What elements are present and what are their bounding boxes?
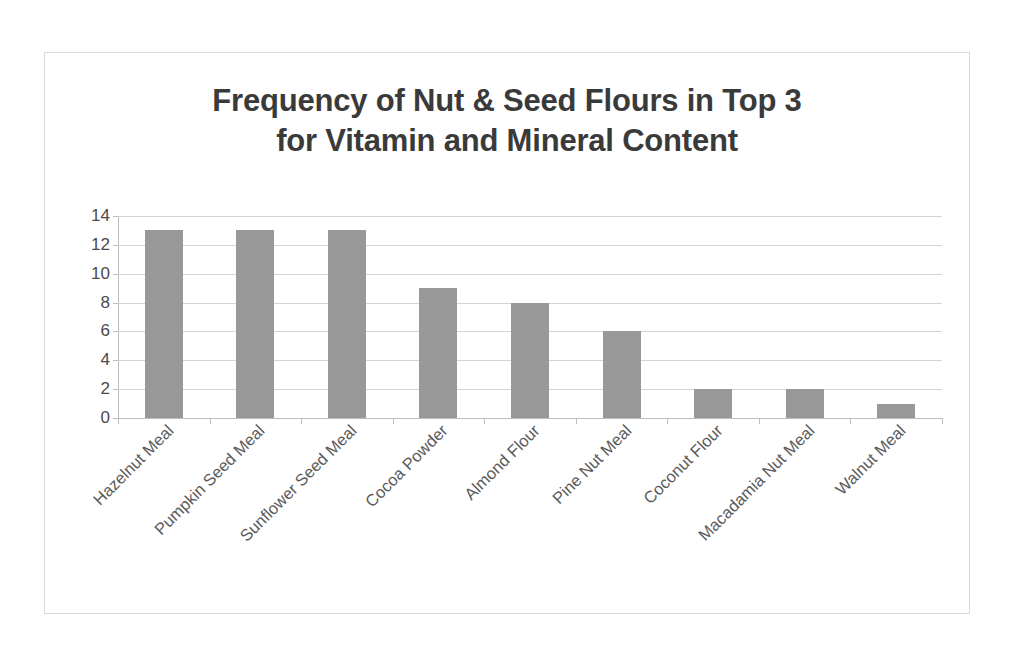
bar[interactable]: [419, 288, 457, 418]
y-axis-tick-mark: [113, 245, 118, 246]
bar[interactable]: [694, 389, 732, 418]
bar[interactable]: [328, 230, 366, 418]
y-axis-tick-label: 2: [70, 380, 110, 397]
bar[interactable]: [603, 331, 641, 418]
y-axis-tick-label: 8: [70, 294, 110, 311]
x-axis-tick-mark: [942, 418, 943, 424]
bar[interactable]: [511, 303, 549, 418]
x-axis-category-labels: Hazelnut MealPumpkin Seed MealSunflower …: [118, 421, 942, 611]
bar[interactable]: [877, 404, 915, 418]
chart-title-line-1: Frequency of Nut & Seed Flours in Top 3: [45, 81, 969, 121]
y-axis-tick-mark: [113, 360, 118, 361]
gridline: [118, 418, 942, 419]
y-axis-tick-label: 10: [70, 265, 110, 282]
y-axis-tick-label: 4: [70, 351, 110, 368]
chart-title: Frequency of Nut & Seed Flours in Top 3 …: [45, 81, 969, 161]
plot-area: [118, 216, 942, 418]
y-axis-tick-label: 0: [70, 409, 110, 426]
y-axis-line: [118, 216, 119, 418]
chart-title-line-2: for Vitamin and Mineral Content: [45, 121, 969, 161]
y-axis-tick-label: 6: [70, 322, 110, 339]
y-axis-tick-mark: [113, 331, 118, 332]
y-axis-tick-mark: [113, 274, 118, 275]
y-axis-tick-labels: 14121086420: [62, 216, 110, 418]
bar[interactable]: [236, 230, 274, 418]
bar[interactable]: [786, 389, 824, 418]
y-axis-tick-mark: [113, 303, 118, 304]
bar[interactable]: [145, 230, 183, 418]
gridline: [118, 216, 942, 217]
chart-frame: Frequency of Nut & Seed Flours in Top 3 …: [44, 52, 970, 614]
y-axis-tick-label: 14: [70, 207, 110, 224]
y-axis-tick-mark: [113, 389, 118, 390]
y-axis-tick-label: 12: [70, 236, 110, 253]
y-axis-tick-mark: [113, 216, 118, 217]
